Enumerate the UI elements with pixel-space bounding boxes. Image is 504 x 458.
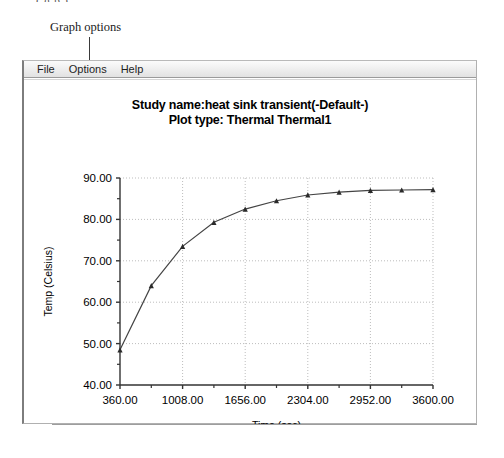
axis-lines (120, 178, 433, 385)
svg-text:50.00: 50.00 (83, 338, 112, 350)
svg-text:2952.00: 2952.00 (350, 394, 392, 406)
menu-bar: File Options Help (24, 61, 476, 78)
svg-text:80.00: 80.00 (83, 213, 112, 225)
graph-window: File Options Help Study name:heat sink t… (22, 60, 477, 424)
annotation-layer: ( g p ) Graph options (0, 0, 504, 62)
y-tick-labels: 40.0050.0060.0070.0080.0090.00 (83, 172, 112, 391)
svg-text:40.00: 40.00 (83, 379, 112, 391)
data-point-markers[interactable] (117, 187, 435, 352)
svg-text:1656.00: 1656.00 (224, 394, 266, 406)
window-bottom-rule (52, 424, 477, 425)
menu-help[interactable]: Help (114, 61, 151, 77)
x-tick-labels: 360.001008.001656.002304.002952.003600.0… (102, 394, 453, 406)
svg-text:360.00: 360.00 (102, 394, 137, 406)
clipped-caption-text: ( g p ) (36, 0, 69, 2)
data-series-thermal1[interactable] (120, 190, 433, 350)
svg-text:70.00: 70.00 (83, 255, 112, 267)
chart-canvas-area: Study name:heat sink transient(-Default-… (24, 79, 476, 423)
menu-file[interactable]: File (30, 61, 62, 77)
y-axis-title: Temp (Celsius) (42, 246, 54, 316)
svg-text:1008.00: 1008.00 (162, 394, 204, 406)
annotation-label-graph-options: Graph options (50, 20, 121, 35)
svg-text:60.00: 60.00 (83, 296, 112, 308)
svg-text:90.00: 90.00 (83, 172, 112, 184)
menu-options[interactable]: Options (62, 61, 114, 77)
thermal-transient-line-chart[interactable]: 360.001008.001656.002304.002952.003600.0… (24, 80, 478, 425)
axis-ticks (116, 178, 433, 389)
annotation-leader-line (89, 37, 90, 61)
grid-lines (120, 178, 433, 385)
svg-text:2304.00: 2304.00 (287, 394, 329, 406)
svg-text:3600.00: 3600.00 (412, 394, 454, 406)
